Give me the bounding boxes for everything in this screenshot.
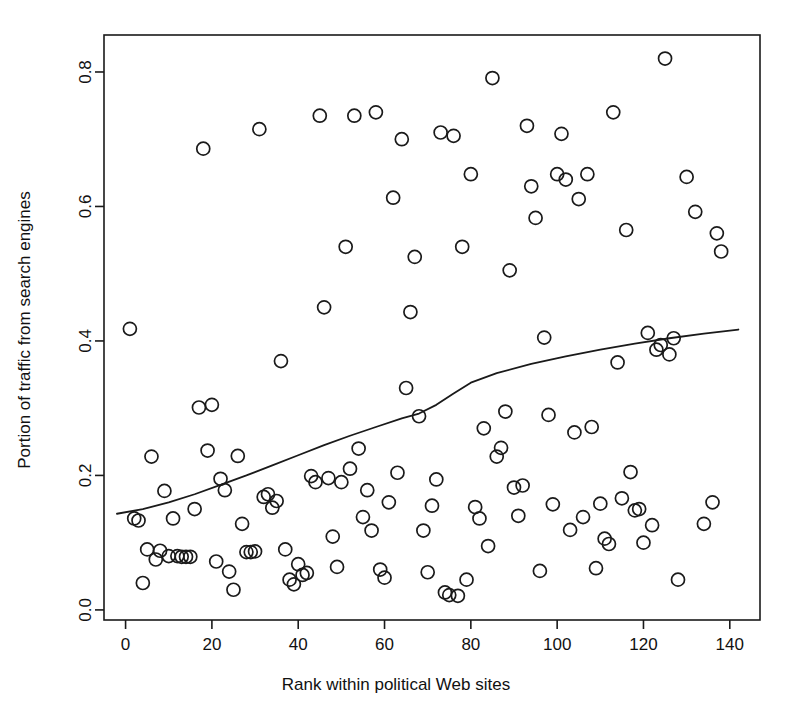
x-tick-label: 60 (375, 635, 394, 654)
x-tick-label: 140 (716, 635, 744, 654)
y-tick-label: 0.4 (77, 329, 96, 353)
x-tick-label: 120 (629, 635, 657, 654)
y-tick-label: 0.2 (77, 464, 96, 488)
scatter-plot: 0.00.20.40.60.8 020406080100120140 Rank … (0, 0, 790, 711)
y-tick-label: 0.6 (77, 195, 96, 219)
y-tick-label: 0.8 (77, 60, 96, 84)
x-tick-label: 80 (461, 635, 480, 654)
x-tick-label: 100 (543, 635, 571, 654)
y-axis-title: Portion of traffic from search engines (15, 191, 34, 469)
figure-page: 0.00.20.40.60.8 020406080100120140 Rank … (0, 0, 790, 711)
x-axis-title: Rank within political Web sites (282, 675, 510, 694)
x-tick-label: 0 (121, 635, 130, 654)
plot-background (0, 0, 790, 711)
y-tick-label: 0.0 (77, 598, 96, 622)
x-tick-label: 40 (289, 635, 308, 654)
x-tick-label: 20 (202, 635, 221, 654)
